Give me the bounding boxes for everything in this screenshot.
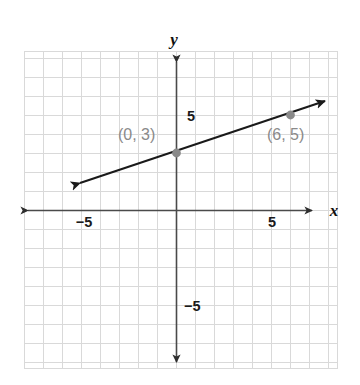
- x-tick-label-negative-five: −5: [76, 214, 93, 230]
- y-tick-label-negative-five: −5: [184, 298, 201, 314]
- y-tick-label-positive-five: 5: [187, 108, 195, 124]
- x-tick-label-positive-five: 5: [268, 214, 276, 230]
- data-point-0-3: [172, 149, 181, 158]
- x-axis-label: x: [329, 201, 339, 220]
- data-point-6-5: [286, 111, 295, 120]
- y-axis-label: y: [168, 30, 178, 49]
- point-label-0-3: (0, 3): [118, 126, 155, 143]
- point-label-6-5: (6, 5): [267, 126, 304, 143]
- coordinate-plane-figure: −5 5 5 −5 y x (0, 3) (6, 5): [0, 0, 360, 385]
- coordinate-plane-svg: −5 5 5 −5 y x (0, 3) (6, 5): [0, 0, 360, 385]
- axes-group: [28, 62, 312, 362]
